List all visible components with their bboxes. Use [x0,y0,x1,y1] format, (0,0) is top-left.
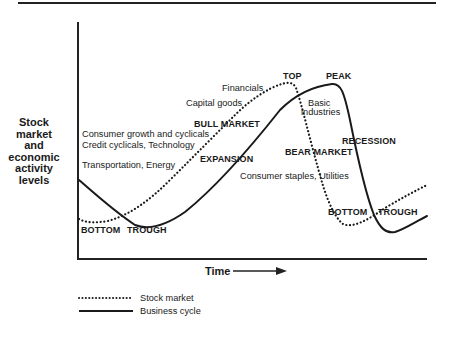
legend-item-stock-market: Stock market [78,291,201,304]
sector-label-basic-industries-2: industries [301,108,340,117]
legend: Stock market Business cycle [78,291,201,317]
sector-label-capital-goods: Capital goods [186,99,242,108]
legend-label: Stock market [140,293,194,303]
y-axis-label-line: Stock [6,117,62,129]
y-axis-label-line: activity [6,163,62,175]
annotation-top: TOP [283,72,302,81]
y-axis-label-line: levels [6,175,62,187]
annotation-bottom-1: BOTTOM [81,226,120,235]
sector-label-financials: Financials [222,84,263,93]
legend-item-business-cycle: Business cycle [78,304,201,317]
annotation-peak: PEAK [326,72,351,81]
y-axis-label: Stock market and economic activity level… [6,117,62,186]
sector-label-credit-cyclicals: Credit cyclicals, Technology [82,141,195,150]
sector-label-consumer-growth: Consumer growth and cyclicals [82,130,209,139]
annotation-trough-2: TROUGH [378,208,418,217]
annotation-trough-1: TROUGH [127,226,167,235]
annotation-bull-market: BULL MARKET [194,120,260,129]
annotation-bottom-2: BOTTOM [328,208,367,217]
stock-market-line [79,83,427,225]
sector-label-transportation: Transportation, Energy [82,161,175,170]
sector-label-consumer-staples: Consumer staples, Utilities [240,172,349,181]
solid-line-swatch-icon [78,307,134,315]
annotation-bear-market: BEAR MARKET [285,148,353,157]
chart-plot-area [0,0,450,339]
y-axis-label-line: market and [6,129,62,152]
dotted-line-swatch-icon [78,294,134,302]
annotation-expansion: EXPANSION [200,155,253,164]
annotation-recession: RECESSION [342,137,396,146]
time-arrow-head-icon [276,267,287,275]
legend-label: Business cycle [140,306,201,316]
x-axis-label: Time [205,265,230,277]
